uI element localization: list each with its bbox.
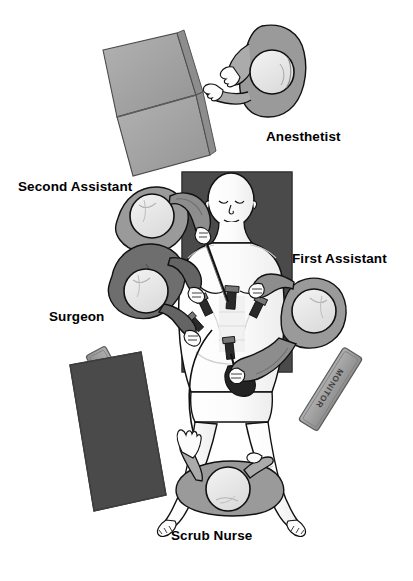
label-second-assistant: Second Assistant (18, 180, 132, 194)
label-anesthetist: Anesthetist (266, 130, 341, 144)
anesthesia-machine (103, 30, 216, 176)
operating-room-diagram: MONITOR MONITOR Anesthetist Second Assis… (0, 0, 413, 581)
label-first-assistant: First Assistant (292, 252, 387, 266)
label-surgeon: Surgeon (49, 310, 104, 324)
instrument-table (70, 352, 166, 511)
person-anesthetist (203, 25, 305, 117)
monitor-right: MONITOR (298, 347, 362, 432)
or-layout-illustration: MONITOR MONITOR (0, 0, 413, 581)
label-scrub-nurse: Scrub Nurse (171, 529, 252, 543)
